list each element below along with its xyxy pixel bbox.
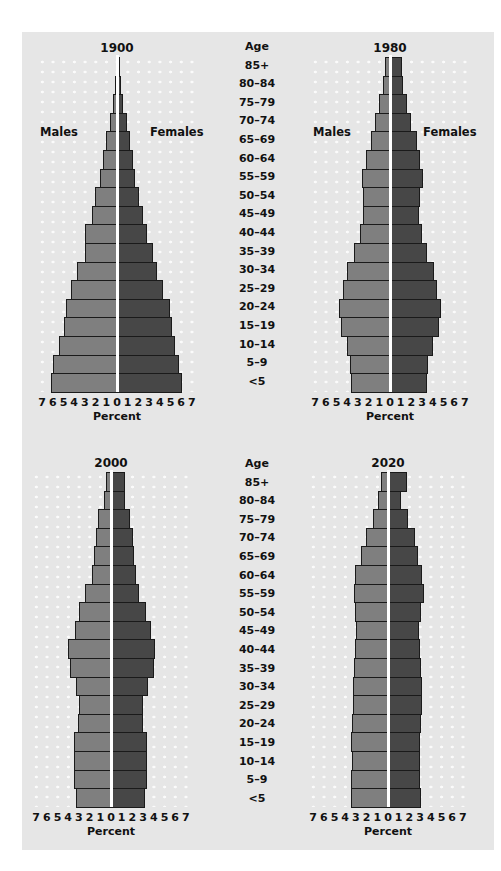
age-label: 55–59 <box>222 585 292 604</box>
male-bar <box>53 355 118 375</box>
male-bar <box>363 206 391 226</box>
age-label: 60–64 <box>222 567 292 586</box>
age-label: 10–14 <box>222 336 292 355</box>
female-bar <box>117 169 135 189</box>
female-bar <box>117 317 172 337</box>
female-bar <box>390 280 437 300</box>
male-bar <box>77 262 118 282</box>
female-bar <box>388 732 420 752</box>
female-bar <box>111 472 125 492</box>
male-bar <box>351 732 389 752</box>
male-bar <box>362 169 391 189</box>
age-label: 35–39 <box>222 660 292 679</box>
female-bar <box>111 621 151 641</box>
age-label: 80–84 <box>222 492 292 511</box>
chart-title: 2000 <box>81 456 141 470</box>
female-bar <box>117 355 179 375</box>
male-bar <box>360 224 391 244</box>
male-bar <box>363 187 391 207</box>
male-bar <box>75 621 112 641</box>
male-bar <box>347 262 391 282</box>
male-bar <box>51 373 118 393</box>
male-bar <box>351 788 389 808</box>
female-bar <box>388 751 420 771</box>
male-bar <box>371 131 391 151</box>
age-label: 40–44 <box>222 641 292 660</box>
male-bar <box>351 770 389 790</box>
male-bar <box>70 658 112 678</box>
female-bar <box>390 355 428 375</box>
female-bar <box>390 206 419 226</box>
male-bar <box>59 336 118 356</box>
female-bar <box>390 336 433 356</box>
age-label: 30–34 <box>222 678 292 697</box>
female-bar <box>390 243 427 263</box>
female-bar <box>390 299 441 319</box>
age-label: 85+ <box>222 474 292 493</box>
male-bar <box>355 602 389 622</box>
age-label: 60–64 <box>222 150 292 169</box>
age-label: 70–74 <box>222 112 292 131</box>
female-bar <box>388 714 421 734</box>
center-axis-line <box>116 55 119 392</box>
male-bar <box>353 695 389 715</box>
female-bar <box>390 169 423 189</box>
age-label: 25–29 <box>222 280 292 299</box>
male-bar <box>92 565 112 585</box>
male-bar <box>85 243 118 263</box>
male-bar <box>354 243 391 263</box>
female-bar <box>388 602 421 622</box>
female-bar <box>390 262 434 282</box>
female-bar <box>388 472 407 492</box>
age-label: 20–24 <box>222 298 292 317</box>
female-bar <box>111 584 139 604</box>
male-bar <box>361 546 389 566</box>
female-bar <box>117 280 163 300</box>
male-bar <box>76 677 112 697</box>
male-bar <box>353 677 389 697</box>
female-bar <box>111 602 146 622</box>
female-bar <box>117 187 139 207</box>
age-label: 45–49 <box>222 205 292 224</box>
female-bar <box>388 546 418 566</box>
age-label: 30–34 <box>222 261 292 280</box>
female-bar <box>388 528 415 548</box>
male-bar <box>78 714 112 734</box>
female-bar <box>390 131 417 151</box>
male-bar <box>350 355 391 375</box>
female-bar <box>390 317 439 337</box>
female-bar <box>388 621 419 641</box>
chart-title: 1900 <box>87 41 147 55</box>
x-tick-label: 7 <box>459 396 471 409</box>
male-bar <box>356 621 389 641</box>
age-label: 5–9 <box>222 354 292 373</box>
female-bar <box>117 224 147 244</box>
age-label: 5–9 <box>222 771 292 790</box>
male-bar <box>352 714 389 734</box>
male-bar <box>366 528 389 548</box>
male-bar <box>343 280 391 300</box>
female-bar <box>111 546 134 566</box>
male-bar <box>74 732 112 752</box>
age-label: 40–44 <box>222 224 292 243</box>
male-bar <box>339 299 391 319</box>
females-label: Females <box>150 125 204 139</box>
age-label: <5 <box>222 790 292 809</box>
age-label: 35–39 <box>222 243 292 262</box>
age-label: 85+ <box>222 57 292 76</box>
female-bar <box>111 695 143 715</box>
male-bar <box>85 224 118 244</box>
male-bar <box>71 280 118 300</box>
age-label: 15–19 <box>222 317 292 336</box>
female-bar <box>390 187 420 207</box>
x-axis-label: Percent <box>350 410 430 423</box>
female-bar <box>388 695 422 715</box>
female-bar <box>111 788 145 808</box>
female-bar <box>111 677 148 697</box>
female-bar <box>117 243 153 263</box>
x-tick-label: 7 <box>186 396 198 409</box>
female-bar <box>390 113 411 133</box>
age-label: 10–14 <box>222 753 292 772</box>
age-label: 75–79 <box>222 94 292 113</box>
male-bar <box>352 751 389 771</box>
